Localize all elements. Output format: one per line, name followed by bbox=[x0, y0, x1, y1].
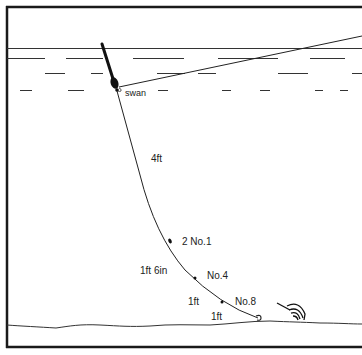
float-icon bbox=[102, 44, 121, 92]
middle-depth-label: 1ft 6in bbox=[140, 266, 167, 276]
float-label: swan bbox=[125, 89, 146, 98]
bait-creature-icon bbox=[277, 303, 305, 320]
river-bed bbox=[7, 321, 362, 328]
line-to-rod bbox=[119, 36, 362, 87]
rig-diagram bbox=[0, 0, 362, 355]
shot-1-label: 2 No.1 bbox=[182, 237, 211, 247]
lower-depth-label: 1ft bbox=[188, 297, 199, 307]
shot-2-label: No.4 bbox=[207, 271, 228, 281]
water-surface bbox=[7, 49, 362, 91]
frame bbox=[6, 6, 362, 348]
main-line bbox=[117, 91, 258, 318]
shot-3-label: No.8 bbox=[235, 297, 256, 307]
hook-length-label: 1ft bbox=[211, 312, 222, 322]
upper-depth-label: 4ft bbox=[151, 154, 162, 164]
